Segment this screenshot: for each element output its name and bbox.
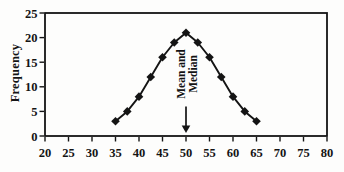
x-tick-label: 25 <box>62 146 75 160</box>
annotation-line-2: Median <box>187 49 199 99</box>
x-tick-label: 45 <box>156 146 169 160</box>
x-tick-label: 50 <box>180 146 193 160</box>
y-tick-label: 25 <box>25 7 38 21</box>
x-tick-label: 75 <box>297 146 310 160</box>
x-tick-label: 65 <box>250 146 263 160</box>
y-tick-label: 0 <box>31 130 37 144</box>
x-tick-label: 35 <box>109 146 122 160</box>
y-tick-label: 5 <box>31 105 37 119</box>
x-tick-label: 20 <box>39 146 52 160</box>
y-tick-label: 15 <box>25 56 38 70</box>
x-tick-label: 55 <box>203 146 216 160</box>
x-tick-label: 70 <box>274 146 287 160</box>
x-tick-label: 40 <box>133 146 146 160</box>
x-tick-label: 80 <box>321 146 334 160</box>
annotation-line-1: Mean and <box>176 49 188 99</box>
data-point-marker <box>146 73 155 82</box>
bell-curve-chart-canvas: 202530354045505560657075800510152025 <box>0 0 344 172</box>
frequency-distribution-figure: 202530354045505560657075800510152025 Fre… <box>0 0 344 172</box>
y-axis-title: Frequency <box>8 44 23 103</box>
y-tick-label: 10 <box>25 80 38 94</box>
x-tick-label: 60 <box>227 146 240 160</box>
annotation-arrowhead <box>182 126 191 134</box>
data-point-marker <box>217 73 226 82</box>
x-tick-label: 30 <box>86 146 99 160</box>
mean-median-annotation: Mean and Median <box>176 49 199 99</box>
y-tick-label: 20 <box>25 31 38 45</box>
